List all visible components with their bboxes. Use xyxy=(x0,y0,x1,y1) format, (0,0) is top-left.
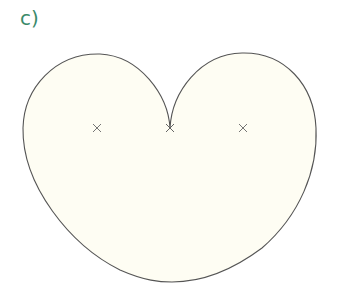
curve-diagram xyxy=(0,0,346,306)
cardioid-curve xyxy=(23,53,316,282)
